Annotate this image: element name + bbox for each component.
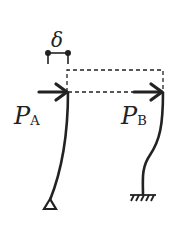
delta-label: δ (51, 28, 63, 52)
dashed-reference-frame (67, 70, 163, 92)
delta-dimension (46, 51, 70, 64)
sway-columns-diagram: δ PA PB (0, 0, 184, 242)
load-label-b: PB (120, 102, 147, 130)
load-arrow-a (39, 84, 67, 100)
load-arrow-b (134, 84, 162, 100)
load-label-a: PA (13, 102, 40, 130)
pin-support-icon (44, 199, 56, 209)
column-b (143, 92, 163, 195)
column-a (50, 92, 68, 200)
fixed-support-icon (130, 195, 156, 201)
